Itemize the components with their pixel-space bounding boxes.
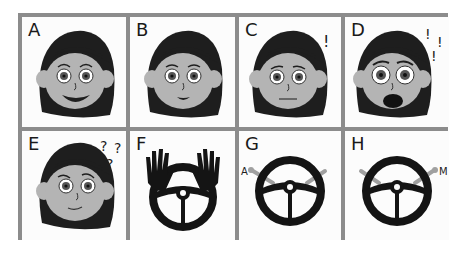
svg-text:!: ! <box>437 34 443 50</box>
svg-text:?: ? <box>106 156 113 172</box>
lever-label: M <box>439 166 448 177</box>
svg-text:?: ? <box>114 140 121 156</box>
panel-g: A G <box>239 131 341 240</box>
svg-text:?: ? <box>100 138 107 154</box>
panel-label: C <box>245 21 258 39</box>
panel-c: ! C <box>239 17 341 127</box>
panel-label: E <box>28 135 39 153</box>
panel-label: G <box>245 135 259 153</box>
panel-label: H <box>351 135 365 153</box>
panel-d: ! ! ! D <box>345 17 449 127</box>
panel-label: F <box>136 135 146 153</box>
panel-label: A <box>28 21 40 39</box>
panel-label: D <box>351 21 365 39</box>
panel-grid: A B <box>18 13 448 240</box>
svg-text:!: ! <box>431 48 437 64</box>
lever-label: A <box>241 166 248 177</box>
svg-text:!: ! <box>425 26 431 42</box>
panel-h: M H <box>345 131 449 240</box>
panel-f: F <box>130 131 235 240</box>
exclamation-mark: ! <box>323 32 329 51</box>
panel-e: ? ? ? E <box>22 131 126 240</box>
panel-label: B <box>136 21 148 39</box>
panel-b: B <box>130 17 235 127</box>
panel-a: A <box>22 17 126 127</box>
